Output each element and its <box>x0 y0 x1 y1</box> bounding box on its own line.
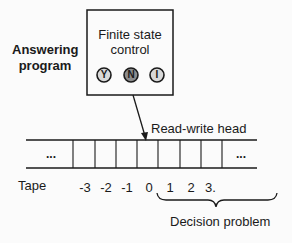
state-i-label: I <box>150 68 164 82</box>
tape-index: -1 <box>118 180 136 195</box>
read-write-head-label: Read-write head <box>151 121 246 136</box>
tape-index: -2 <box>97 180 115 195</box>
tape-index: 2 <box>184 180 198 195</box>
decision-problem-brace <box>157 193 277 207</box>
answering-program-line1: Answering <box>12 42 78 58</box>
tape-index: -3 <box>76 180 94 195</box>
tape-label: Tape <box>18 178 46 193</box>
tape-right-ellipsis: ... <box>236 147 246 162</box>
tape <box>26 140 257 168</box>
finite-state-control-line1: Finite state <box>87 27 173 42</box>
tape-index: 1 <box>163 180 177 195</box>
tape-left-ellipsis: ... <box>46 147 56 162</box>
answering-program-line2: program <box>12 58 78 74</box>
finite-state-control-title: Finite state control <box>87 27 173 57</box>
turing-machine-diagram: Answering program Finite state control Y… <box>0 0 292 243</box>
state-y-label: Y <box>97 68 111 82</box>
state-n-label: N <box>124 68 138 82</box>
tape-index-mark: . <box>212 180 216 195</box>
finite-state-control-line2: control <box>87 42 173 57</box>
answering-program-label: Answering program <box>12 42 78 74</box>
tape-index: 3. <box>205 180 216 195</box>
tape-index: 0 <box>142 180 156 195</box>
decision-problem-label: Decision problem <box>170 214 270 229</box>
read-write-head-arrow <box>133 95 148 141</box>
